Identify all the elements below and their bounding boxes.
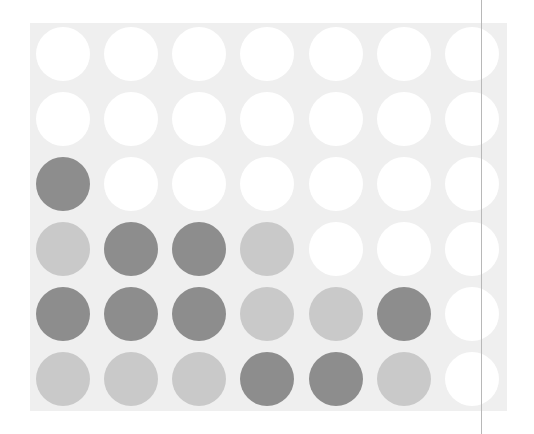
empty-slot[interactable] [240,92,294,146]
dark-piece[interactable] [104,287,158,341]
light-piece[interactable] [104,352,158,406]
empty-slot[interactable] [240,27,294,81]
dark-piece[interactable] [36,157,90,211]
empty-slot[interactable] [104,92,158,146]
light-piece[interactable] [36,352,90,406]
empty-slot[interactable] [377,222,431,276]
light-piece[interactable] [309,287,363,341]
empty-slot[interactable] [377,27,431,81]
empty-slot[interactable] [309,157,363,211]
empty-slot[interactable] [172,157,226,211]
light-piece[interactable] [377,352,431,406]
empty-slot[interactable] [309,92,363,146]
empty-slot[interactable] [445,222,499,276]
dark-piece[interactable] [309,352,363,406]
dark-piece[interactable] [172,222,226,276]
light-piece[interactable] [240,222,294,276]
empty-slot[interactable] [172,92,226,146]
empty-slot[interactable] [172,27,226,81]
dark-piece[interactable] [377,287,431,341]
dark-piece[interactable] [36,287,90,341]
empty-slot[interactable] [445,352,499,406]
empty-slot[interactable] [104,27,158,81]
empty-slot[interactable] [445,157,499,211]
light-piece[interactable] [172,352,226,406]
light-piece[interactable] [240,287,294,341]
empty-slot[interactable] [309,222,363,276]
empty-slot[interactable] [309,27,363,81]
empty-slot[interactable] [377,92,431,146]
empty-slot[interactable] [445,27,499,81]
empty-slot[interactable] [240,157,294,211]
empty-slot[interactable] [377,157,431,211]
vertical-divider-line [481,0,482,434]
empty-slot[interactable] [445,287,499,341]
empty-slot[interactable] [104,157,158,211]
light-piece[interactable] [36,222,90,276]
dark-piece[interactable] [240,352,294,406]
empty-slot[interactable] [36,27,90,81]
empty-slot[interactable] [445,92,499,146]
dark-piece[interactable] [172,287,226,341]
game-board [30,23,507,411]
dark-piece[interactable] [104,222,158,276]
empty-slot[interactable] [36,92,90,146]
